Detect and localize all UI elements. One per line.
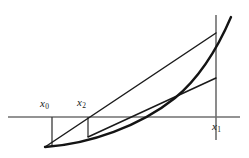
axis-label-x0-sub: 0 bbox=[45, 102, 49, 111]
axis-label-x1-sub: 1 bbox=[217, 125, 221, 134]
axis-label-x0: x0 bbox=[40, 98, 49, 109]
axis-label-x1: x1 bbox=[212, 121, 221, 132]
figure-canvas bbox=[0, 0, 249, 158]
secant-chord-x2-x1 bbox=[88, 78, 216, 137]
axis-label-x2-sub: 2 bbox=[82, 101, 86, 110]
secant-method-figure: x0 x2 x1 bbox=[0, 0, 249, 158]
axis-label-x2: x2 bbox=[77, 97, 86, 108]
